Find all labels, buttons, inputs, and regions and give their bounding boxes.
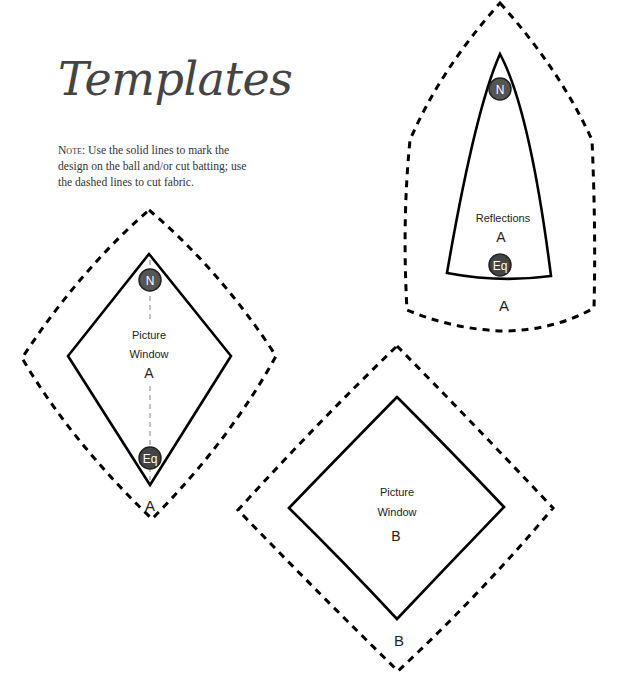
outer-label: A: [499, 297, 509, 314]
svg-text:Eq: Eq: [143, 452, 158, 466]
svg-text:Eq: Eq: [493, 259, 508, 273]
equator-badge: Eq: [489, 254, 511, 276]
template-name: Reflections: [476, 212, 531, 224]
template-name-line1: Picture: [380, 486, 414, 498]
template-picture-window-b: Picture Window B B: [238, 346, 553, 671]
north-badge: N: [139, 269, 161, 291]
svg-text:N: N: [146, 274, 155, 288]
equator-badge: Eq: [139, 447, 161, 469]
templates-canvas: N Reflections A Eq A N Picture Window A …: [0, 0, 626, 691]
template-reflections-a: N Reflections A Eq A: [405, 3, 595, 331]
template-picture-window-a: N Picture Window A Eq A: [22, 210, 276, 519]
north-badge: N: [489, 78, 511, 100]
template-name-line2: Window: [377, 506, 416, 518]
template-letter: A: [144, 365, 154, 381]
template-name-line1: Picture: [132, 329, 166, 341]
template-name-line2: Window: [129, 348, 168, 360]
outer-label: B: [394, 632, 404, 649]
svg-text:N: N: [496, 83, 505, 97]
template-letter: A: [496, 229, 506, 245]
outer-label: A: [145, 497, 155, 514]
template-letter: B: [391, 528, 400, 544]
